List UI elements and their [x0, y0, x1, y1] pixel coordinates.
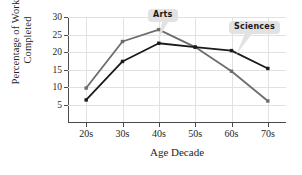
data-point-marker	[230, 70, 233, 73]
x-axis-tick-label: 70s	[261, 128, 275, 139]
y-axis-tick-label: 15	[53, 65, 63, 75]
sciences-callout-label: Sciences	[229, 21, 280, 34]
y-axis-tick-label: 30	[53, 12, 63, 22]
data-point-marker	[84, 86, 87, 89]
y-axis-tick-label: 25	[53, 30, 63, 40]
data-point-marker	[121, 40, 124, 43]
x-axis-tick	[268, 122, 269, 127]
y-axis-tick-label: 5	[57, 100, 62, 110]
x-axis-tick-label: 50s	[188, 128, 202, 139]
y-axis-title-line1: Percentage of Works	[10, 0, 21, 84]
x-axis-tick-label: 60s	[225, 128, 239, 139]
y-axis-tick-label: 10	[53, 82, 63, 92]
y-axis-tick-label: 20	[53, 47, 63, 57]
data-point-marker	[121, 60, 124, 63]
data-point-marker	[84, 98, 87, 101]
x-axis-tick-label: 30s	[116, 128, 130, 139]
arts-callout-label: Arts	[148, 9, 178, 22]
x-axis-tick	[86, 122, 87, 127]
data-point-marker	[266, 67, 269, 70]
data-point-marker	[266, 99, 269, 102]
x-axis-line	[68, 122, 286, 123]
x-axis-tick-label: 40s	[152, 128, 166, 139]
y-axis-title-line2: Completed	[22, 0, 34, 100]
x-axis-tick	[159, 122, 160, 127]
x-axis-tick	[123, 122, 124, 127]
data-point-marker	[193, 45, 196, 48]
x-axis-tick	[232, 122, 233, 127]
x-axis-tick	[195, 122, 196, 127]
x-axis-tick-label: 20s	[79, 128, 93, 139]
line-chart: Percentage of Works Completed 5101520253…	[0, 0, 302, 175]
x-axis-title: Age Decade	[68, 146, 286, 158]
y-axis-title: Percentage of Works Completed	[10, 0, 34, 100]
data-point-marker	[157, 42, 160, 45]
